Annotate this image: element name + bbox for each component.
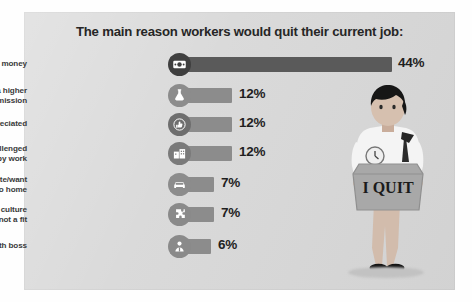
bar-value: 12% [239, 115, 265, 130]
row-label: Don't feel appreciated [0, 119, 27, 129]
chart-row: For more money 44% [24, 55, 324, 87]
money-icon [168, 53, 191, 76]
chart-row: Corporate culture is not a fit 7% [24, 206, 324, 238]
row-label-line1: For more money [0, 59, 27, 68]
row-label: Unhappy with boss [0, 241, 27, 251]
chart-row: Bored/unchallenged by work [24, 145, 324, 176]
row-label-line1: Bored/unchallenged [0, 144, 27, 153]
bar-chart: For more money 44% [24, 55, 324, 268]
bar-fill [170, 57, 392, 72]
bar-value: 12% [239, 86, 265, 101]
row-label: For more money [0, 59, 27, 69]
infographic-root: The main reason workers would quit their… [0, 0, 472, 302]
row-label-line2: by work [0, 154, 27, 163]
figure-shadow [348, 267, 424, 278]
row-label: Bored/unchallenged by work [0, 144, 27, 164]
row-label-line2: is not a fit [0, 215, 27, 224]
legs-shape [372, 202, 400, 266]
infographic-panel: The main reason workers would quit their… [24, 12, 455, 290]
person-icon [168, 235, 191, 258]
puzzle-piece-icon [168, 203, 191, 226]
bar-value: 44% [398, 55, 424, 70]
box-text: I QUIT [362, 179, 413, 196]
chart-row: Unhappy with boss 6% [24, 238, 324, 268]
row-label: For a company with a higher purpose/stro… [0, 86, 27, 106]
row-label: Corporate culture is not a fit [0, 205, 27, 225]
bar-value: 12% [239, 144, 265, 159]
chart-row: Don't feel appreciated 12% [24, 116, 324, 145]
flask-icon [168, 84, 191, 107]
row-label-line2: something closer to home [0, 185, 27, 194]
woman-holding-box-illustration: I QUIT [320, 82, 455, 282]
row-label: Bad commute/want something closer to hom… [0, 175, 27, 195]
bar-value: 7% [221, 175, 240, 190]
row-label-line1: Bad commute/want [0, 175, 27, 184]
left-eye [379, 105, 382, 109]
chart-row: For a company with a higher purpose/stro… [24, 87, 324, 116]
woman-figure-svg: I QUIT [320, 82, 455, 282]
right-eye [392, 105, 395, 109]
car-icon [168, 173, 191, 196]
building-icon [168, 142, 191, 165]
bar-value: 6% [218, 237, 237, 252]
page-title: The main reason workers would quit their… [24, 24, 455, 39]
row-label-line1: For a company with a higher [0, 86, 27, 95]
chart-row: Bad commute/want something closer to hom… [24, 176, 324, 206]
row-label-line2: purpose/stronger mission [0, 96, 27, 105]
row-label-line1: Unhappy with boss [0, 241, 27, 250]
row-label-line1: Don't feel appreciated [0, 119, 27, 128]
bar-value: 7% [221, 205, 240, 220]
row-label-line1: Corporate culture [0, 205, 27, 214]
thumbs-up-icon [168, 113, 191, 136]
